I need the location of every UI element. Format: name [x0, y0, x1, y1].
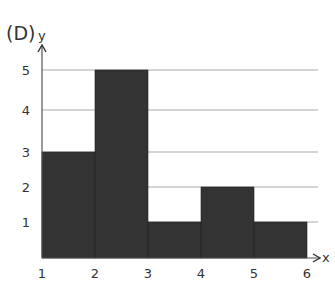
x-tick-labels: 123456 — [38, 266, 311, 281]
y-tick-labels: 12345 — [22, 63, 30, 230]
x-tick-label: 4 — [197, 266, 205, 281]
histogram-bar — [42, 152, 95, 258]
histogram-chart: 12345 123456 (D) y x — [0, 0, 335, 290]
y-tick-label: 1 — [22, 215, 30, 230]
y-tick-label: 3 — [22, 145, 30, 160]
histogram-bar — [254, 222, 307, 258]
x-tick-label: 5 — [250, 266, 258, 281]
y-axis-label: y — [38, 28, 46, 43]
bars — [42, 70, 307, 258]
x-axis-label: x — [322, 250, 330, 265]
y-tick-label: 4 — [22, 103, 30, 118]
histogram-bar — [148, 222, 201, 258]
y-tick-label: 2 — [22, 180, 30, 195]
panel-label: (D) — [6, 22, 35, 44]
x-tick-label: 1 — [38, 266, 46, 281]
histogram-bar — [201, 187, 254, 258]
x-tick-label: 2 — [91, 266, 99, 281]
x-tick-label: 3 — [144, 266, 152, 281]
y-tick-label: 5 — [22, 63, 30, 78]
histogram-bar — [95, 70, 148, 258]
x-tick-label: 6 — [303, 266, 311, 281]
